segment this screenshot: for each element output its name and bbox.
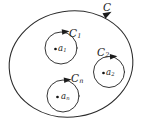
contour-diagram-canvas <box>0 0 142 124</box>
label-outer-contour-C: C <box>103 2 111 13</box>
outer-contour-C <box>1 2 140 124</box>
label-inner-contour-C1: C1 <box>69 28 81 40</box>
label-inner-contour-C2-base: C <box>97 46 105 58</box>
point-a2-dot <box>102 72 105 75</box>
label-inner-contour-Cn: Cn <box>71 73 83 85</box>
label-inner-contour-Cn-subscript: n <box>79 77 83 85</box>
label-point-a1-subscript: 1 <box>63 47 66 53</box>
label-point-a2-subscript: 2 <box>111 71 114 77</box>
label-inner-contour-C1-base: C <box>69 27 77 39</box>
label-point-a1: a1 <box>58 44 67 53</box>
outer-contour-C-group <box>1 2 140 124</box>
contour-diagram-figure: C C1 C2 Cn a1 a2 an <box>0 0 142 124</box>
label-point-an: an <box>61 92 70 101</box>
point-an-dot <box>56 96 59 99</box>
label-inner-contour-C1-subscript: 1 <box>77 32 81 40</box>
label-point-an-subscript: n <box>66 95 69 101</box>
label-inner-contour-Cn-base: C <box>71 72 79 84</box>
point-a1-dot <box>54 48 57 51</box>
label-inner-contour-C2: C2 <box>97 47 109 59</box>
label-point-a2: a2 <box>106 68 115 77</box>
label-inner-contour-C2-subscript: 2 <box>105 51 109 59</box>
